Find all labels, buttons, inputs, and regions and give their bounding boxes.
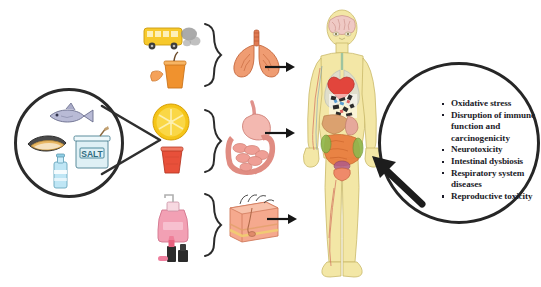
effect-item-neurotoxicity: Neurotoxicity bbox=[442, 144, 541, 156]
orange-drink-icon bbox=[151, 52, 187, 88]
arrow-skin-to-body bbox=[266, 212, 298, 226]
route-dermal-sources bbox=[140, 186, 206, 264]
effect-item-immune-line3: carcinogenicity bbox=[442, 133, 541, 145]
water-bottle-icon bbox=[54, 154, 67, 188]
effect-item-reproductive-toxicity: Reproductive toxicity bbox=[442, 191, 541, 203]
brace-dermal bbox=[200, 192, 226, 258]
lotion-pump-bottle-icon bbox=[158, 195, 188, 242]
effect-item-oxidative-stress: Oxidative stress bbox=[442, 98, 541, 110]
effect-item-immune-disruption: Disruption of immune bbox=[442, 110, 541, 122]
fish-icon bbox=[50, 103, 93, 122]
red-cup-icon bbox=[161, 147, 183, 173]
health-effects-list: Oxidative stress Disruption of immune fu… bbox=[402, 98, 541, 202]
arrow-gut-to-body bbox=[264, 126, 296, 140]
effect-item-respiratory-diseases: Respiratory system bbox=[442, 168, 541, 180]
brain-overlay bbox=[329, 16, 356, 35]
human-anatomy-figure bbox=[296, 8, 388, 280]
figure-canvas: SALT bbox=[0, 0, 541, 287]
orange-slice-icon bbox=[153, 104, 189, 140]
mussel-icon bbox=[28, 136, 66, 151]
lungs-icon bbox=[228, 28, 286, 84]
brace-inhalation bbox=[200, 22, 226, 88]
effect-item-respiratory-line2: diseases bbox=[442, 179, 541, 191]
arrow-lungs-to-body bbox=[264, 60, 296, 74]
effect-item-intestinal-dysbiosis: Intestinal dysbiosis bbox=[442, 156, 541, 168]
effect-item-immune-line2: function and bbox=[442, 121, 541, 133]
bus-exhaust-icon bbox=[144, 28, 201, 50]
route-ingestion-sources bbox=[140, 100, 206, 176]
route-inhalation-sources bbox=[140, 14, 206, 92]
